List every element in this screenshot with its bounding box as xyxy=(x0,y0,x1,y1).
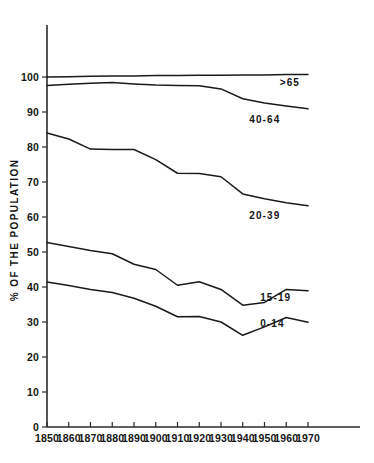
y-tick-label: 0 xyxy=(33,421,39,433)
x-tick-label: 1850 xyxy=(35,432,59,444)
series-line--65 xyxy=(47,75,308,77)
x-tick-label: 1950 xyxy=(252,432,276,444)
y-tick-label: 60 xyxy=(27,211,39,223)
y-tick-label: 70 xyxy=(27,176,39,188)
series-label-15-19: 15-19 xyxy=(260,292,291,303)
y-axis-group: 0102030405060708090100 xyxy=(21,25,47,433)
series-label-0-14: 0-14 xyxy=(260,318,284,329)
series-label-40-64: 40-64 xyxy=(249,114,280,125)
series-label--65: >65 xyxy=(280,77,300,88)
series-line-40-64 xyxy=(47,83,308,109)
x-tick-label: 1940 xyxy=(231,432,255,444)
population-age-distribution-chart: 0102030405060708090100 18501860187018801… xyxy=(0,0,374,463)
x-tick-label: 1970 xyxy=(296,432,320,444)
y-tick-label: 40 xyxy=(27,281,39,293)
x-tick-label: 1870 xyxy=(78,432,102,444)
y-tick-label: 30 xyxy=(27,316,39,328)
x-axis-tick-labels: 1850186018701880189019001910192019301940… xyxy=(35,432,320,444)
x-tick-label: 1880 xyxy=(100,432,124,444)
y-axis-tick-labels: 0102030405060708090100 xyxy=(21,71,39,433)
x-tick-label: 1900 xyxy=(144,432,168,444)
y-tick-label: 90 xyxy=(27,106,39,118)
series-label-20-39: 20-39 xyxy=(249,210,280,221)
series-line-20-39 xyxy=(47,133,308,206)
x-axis-group: 1850186018701880189019001910192019301940… xyxy=(35,422,360,444)
x-tick-label: 1890 xyxy=(122,432,146,444)
y-tick-label: 50 xyxy=(27,246,39,258)
x-tick-label: 1860 xyxy=(57,432,81,444)
x-tick-label: 1960 xyxy=(274,432,298,444)
y-tick-label: 80 xyxy=(27,141,39,153)
y-tick-label: 20 xyxy=(27,351,39,363)
x-tick-label: 1920 xyxy=(187,432,211,444)
x-tick-label: 1910 xyxy=(165,432,189,444)
y-tick-label: 10 xyxy=(27,386,39,398)
y-tick-label: 100 xyxy=(21,71,39,83)
chart-svg: 0102030405060708090100 18501860187018801… xyxy=(0,0,374,463)
x-tick-label: 1930 xyxy=(209,432,233,444)
y-axis-title: % OF THE POPULATION xyxy=(9,159,20,302)
